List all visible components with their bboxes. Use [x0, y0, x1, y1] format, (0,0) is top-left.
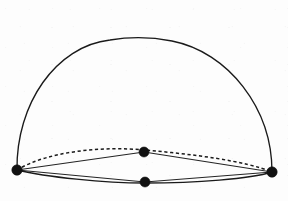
hemisphere-diagram	[0, 0, 288, 201]
vertex-dot-lower-middle	[140, 177, 150, 187]
vertex-dot-upper-middle	[139, 147, 149, 157]
vertex-dot-right	[267, 167, 277, 177]
chord-left-to-upper-node	[17, 152, 144, 170]
figure-canvas: Hemisphere with equatorial ellipse and f…	[0, 0, 288, 201]
vertex-dot-left	[12, 165, 22, 175]
chord-upper-node-to-right	[144, 152, 272, 172]
